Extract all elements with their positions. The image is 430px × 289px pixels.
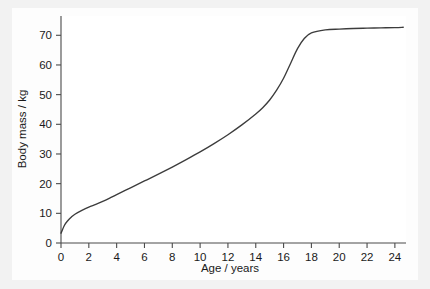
y-tick-label: 30: [39, 148, 52, 160]
y-tick-label: 0: [46, 237, 52, 249]
chart-page: 010203040506070 024681012141618202224 Ag…: [0, 0, 430, 289]
x-tick-label: 24: [388, 251, 401, 263]
x-tick-label: 2: [86, 251, 92, 263]
x-axis-ticks: 024681012141618202224: [58, 243, 402, 263]
x-tick-label: 22: [361, 251, 374, 263]
x-axis-title: Age / years: [201, 262, 259, 274]
y-tick-label: 20: [39, 178, 52, 190]
x-tick-label: 20: [333, 251, 346, 263]
y-tick-label: 40: [39, 118, 52, 130]
x-tick-label: 18: [305, 251, 318, 263]
x-tick-label: 8: [169, 251, 175, 263]
x-tick-label: 4: [113, 251, 120, 263]
y-axis-title: Body mass / kg: [16, 90, 28, 169]
plot-area-background: [61, 16, 406, 243]
y-tick-label: 70: [39, 29, 52, 41]
x-tick-label: 0: [58, 251, 64, 263]
y-tick-label: 60: [39, 59, 52, 71]
y-axis-ticks: 010203040506070: [39, 29, 61, 249]
growth-curve-chart: 010203040506070 024681012141618202224 Ag…: [12, 8, 418, 280]
chart-card: 010203040506070 024681012141618202224 Ag…: [12, 8, 418, 280]
x-tick-label: 16: [277, 251, 290, 263]
x-tick-label: 6: [141, 251, 147, 263]
y-tick-label: 10: [39, 207, 52, 219]
y-tick-label: 50: [39, 89, 52, 101]
